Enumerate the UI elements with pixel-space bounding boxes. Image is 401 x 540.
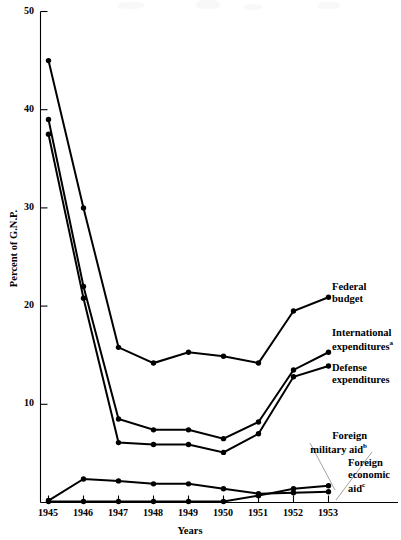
y-axis-label-50: 50	[12, 6, 34, 16]
data-point-marker	[46, 58, 51, 63]
y-axis-label-20: 20	[12, 300, 34, 310]
series-polyline	[49, 120, 329, 439]
data-point-marker	[46, 499, 51, 504]
x-axis-label-1949: 1949	[168, 508, 208, 518]
annotation-foreign-military-aid-line2: military aidb	[292, 442, 367, 456]
data-point-marker	[186, 427, 191, 432]
annotation-defense-expenditures: Defense expenditures	[332, 362, 398, 386]
x-axis-label-1952: 1952	[273, 508, 313, 518]
data-point-marker	[326, 295, 331, 300]
data-point-marker	[151, 499, 156, 504]
data-point-marker	[186, 350, 191, 355]
x-axis-title: Years	[155, 525, 225, 536]
annotation-foreign-military-aid-line1: Foreign	[292, 430, 367, 442]
data-point-marker	[116, 345, 121, 350]
data-point-marker	[326, 483, 331, 488]
annotation-foreign-economic-aid-word: aid	[348, 483, 362, 494]
annotation-international-expenditures: International expendituresa	[332, 327, 401, 353]
annotation-federal-budget: Federal budget	[332, 281, 398, 305]
annotation-defense-expenditures-line1: Defense	[332, 362, 398, 374]
chart-page: 50 40 30 20 10 1945 1946 1947 1948 1949 …	[0, 0, 401, 540]
y-axis-label-40: 40	[12, 104, 34, 114]
data-point-marker	[186, 442, 191, 447]
data-point-marker	[256, 493, 261, 498]
data-point-marker	[256, 431, 261, 436]
data-point-marker	[291, 374, 296, 379]
data-point-marker	[326, 363, 331, 368]
data-point-marker	[256, 419, 261, 424]
data-point-marker	[81, 296, 86, 301]
annotation-international-expenditures-line1: International	[332, 327, 401, 339]
data-point-marker	[186, 499, 191, 504]
footnote-marker-a: a	[390, 339, 394, 347]
data-point-marker	[256, 360, 261, 365]
data-point-marker	[291, 308, 296, 313]
x-axis-label-1950: 1950	[203, 508, 243, 518]
data-point-marker	[46, 117, 51, 122]
annotation-foreign-economic-aid-line3: aidc	[348, 481, 401, 495]
data-point-marker	[221, 486, 226, 491]
annotation-foreign-economic-aid: Foreign economic aidc	[348, 457, 401, 495]
data-point-marker	[291, 367, 296, 372]
series-polyline	[49, 61, 329, 363]
series-polyline	[49, 134, 329, 452]
annotation-international-expenditures-line2: expendituresa	[332, 339, 401, 353]
data-point-marker	[221, 436, 226, 441]
y-axis-title: Percent of G.N.P.	[8, 204, 19, 294]
data-point-marker	[46, 132, 51, 137]
data-point-marker	[151, 427, 156, 432]
annotation-defense-expenditures-line2: expenditures	[332, 374, 398, 386]
data-point-marker	[221, 353, 226, 358]
annotation-federal-budget-line1: Federal	[332, 281, 398, 293]
x-axis-label-1946: 1946	[63, 508, 103, 518]
data-point-marker	[116, 440, 121, 445]
footnote-marker-c: c	[362, 481, 365, 489]
data-point-marker	[326, 350, 331, 355]
data-point-marker	[81, 205, 86, 210]
data-point-marker	[291, 486, 296, 491]
data-point-marker	[151, 442, 156, 447]
data-point-marker	[326, 489, 331, 494]
data-point-marker	[81, 499, 86, 504]
annotation-foreign-military-aid: Foreign military aidb	[292, 430, 367, 456]
y-axis-label-10: 10	[12, 398, 34, 408]
annotation-federal-budget-line2: budget	[332, 293, 398, 305]
data-point-marker	[186, 481, 191, 486]
chart-plot-area	[0, 0, 401, 540]
data-point-marker	[151, 360, 156, 365]
x-axis-label-1948: 1948	[133, 508, 173, 518]
x-axis-label-1945: 1945	[28, 508, 68, 518]
x-axis-label-1951: 1951	[238, 508, 278, 518]
data-point-marker	[116, 478, 121, 483]
annotation-foreign-economic-aid-line1: Foreign	[348, 457, 401, 469]
x-axis-label-1947: 1947	[98, 508, 138, 518]
series-defense-expenditures	[46, 132, 331, 456]
annotation-international-expenditures-word: expenditures	[332, 341, 390, 352]
data-point-marker	[151, 481, 156, 486]
data-point-marker	[116, 499, 121, 504]
x-axis-label-1953: 1953	[308, 508, 348, 518]
annotation-foreign-economic-aid-line2: economic	[348, 469, 401, 481]
data-point-marker	[221, 499, 226, 504]
annotation-foreign-military-aid-word: military aid	[310, 444, 363, 455]
data-point-marker	[116, 416, 121, 421]
data-point-marker	[81, 476, 86, 481]
series-international-expenditures	[46, 117, 331, 442]
data-point-marker	[221, 450, 226, 455]
footnote-marker-b: b	[363, 442, 367, 450]
